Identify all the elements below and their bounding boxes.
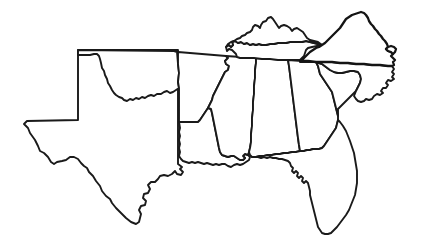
southeastern-us-map — [0, 0, 422, 251]
map-figure: Map of the Southeastern United States — [0, 0, 422, 251]
state-shape-virginia-highlighted — [300, 12, 395, 66]
state-outlines — [24, 12, 396, 234]
